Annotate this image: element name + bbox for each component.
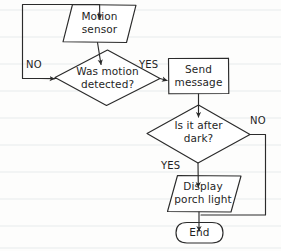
node-motion-sensor[interactable] [63, 4, 136, 43]
node-end[interactable] [176, 222, 223, 243]
node-display-porch-light[interactable] [167, 175, 241, 212]
flowchart-canvas: Motion sensor Was motion detected? Send … [0, 0, 281, 251]
node-send-message[interactable] [168, 58, 229, 94]
edge-decision-yes-to-send [160, 79, 167, 81]
node-is-it-after-dark[interactable] [147, 105, 250, 163]
node-was-motion-detected[interactable] [55, 50, 160, 106]
